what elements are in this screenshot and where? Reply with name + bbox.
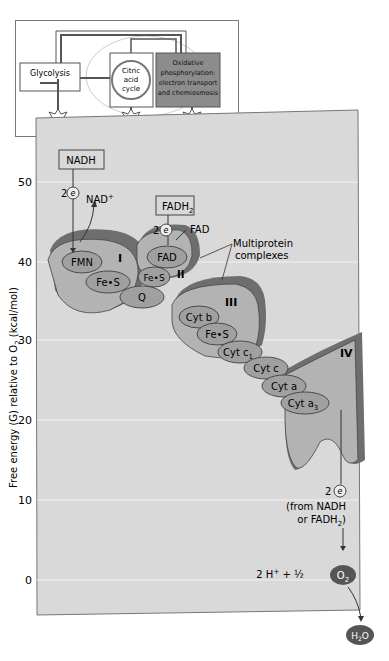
tick-10: 10 — [18, 494, 32, 507]
tick-50: 50 — [18, 176, 32, 189]
tick-40: 40 — [18, 256, 32, 269]
svg-text:complexes: complexes — [235, 250, 288, 261]
svg-text:Fe•S: Fe•S — [143, 273, 165, 283]
svg-text:2: 2 — [61, 188, 67, 199]
svg-text:NADH: NADH — [66, 155, 96, 166]
electron-transport-chain-diagram: 50 40 30 20 10 0 Free energy (G) relativ… — [0, 0, 389, 661]
svg-text:II: II — [177, 269, 184, 280]
svg-text:FAD: FAD — [190, 224, 210, 235]
svg-text:FMN: FMN — [71, 257, 93, 268]
svg-text:e: e — [338, 487, 343, 496]
svg-text:e: e — [71, 189, 76, 198]
svg-text:(from NADH: (from NADH — [286, 501, 346, 512]
svg-text:I: I — [118, 252, 122, 265]
svg-text:IV: IV — [340, 347, 353, 360]
svg-text:Q: Q — [138, 292, 146, 303]
svg-text:2: 2 — [153, 225, 159, 236]
svg-text:III: III — [225, 296, 237, 309]
svg-text:Fe•S: Fe•S — [96, 277, 120, 288]
svg-text:Cyt b: Cyt b — [186, 312, 212, 323]
svg-text:2 H+ + ½: 2 H+ + ½ — [256, 568, 304, 580]
svg-text:Cyt a: Cyt a — [271, 381, 297, 392]
svg-text:FAD: FAD — [157, 252, 177, 263]
tick-20: 20 — [18, 414, 32, 427]
svg-text:Fe•S: Fe•S — [205, 329, 229, 340]
y-axis-label: Free energy (G) relative to O2 (kcal/mol… — [8, 287, 22, 488]
svg-text:e: e — [164, 226, 169, 235]
svg-text:Multiprotein: Multiprotein — [233, 238, 293, 249]
svg-text:Cyt c: Cyt c — [253, 363, 279, 374]
svg-text:2: 2 — [325, 486, 331, 497]
tick-0: 0 — [25, 574, 32, 587]
